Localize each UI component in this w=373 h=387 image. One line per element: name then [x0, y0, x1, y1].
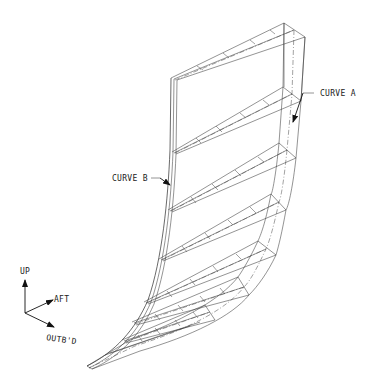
- axis-label-aft: AFT: [54, 295, 69, 304]
- axis-label-outboard: OUTB'D: [46, 333, 78, 346]
- wireframe-diagram: CURVE A CURVE B UP AFT OUTB'D: [0, 0, 373, 387]
- rib-7: [122, 305, 215, 343]
- curve-b-edge: [87, 78, 177, 369]
- curve-b-callout: CURVE B: [112, 174, 170, 185]
- outboard-arrow-icon: [25, 313, 54, 327]
- section-ribs: [105, 87, 301, 355]
- rib-2: [172, 87, 301, 154]
- curve-a-edge: [87, 23, 305, 369]
- top-section: [171, 23, 305, 101]
- curve-b-label: CURVE B: [112, 174, 148, 183]
- rib-3: [168, 143, 296, 212]
- axis-label-up: UP: [20, 267, 30, 276]
- curve-a-callout: CURVE A: [293, 89, 356, 122]
- orientation-axes: UP AFT OUTB'D: [20, 267, 77, 346]
- aft-arrow-icon: [25, 300, 53, 313]
- curve-a-label: CURVE A: [320, 89, 356, 98]
